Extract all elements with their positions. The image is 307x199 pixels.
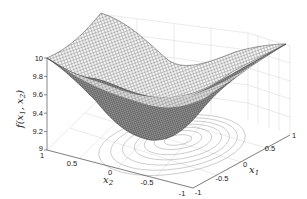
x2-tick: 0.5 — [67, 159, 77, 168]
x1-tick: 0 — [243, 160, 247, 169]
x2-tick: -0.5 — [141, 178, 154, 187]
mesh-surface — [47, 13, 286, 140]
z-tick-labels: 10 9.8 9.6 9.4 9.2 9 — [33, 54, 43, 154]
x1-tick: -0.5 — [216, 174, 229, 183]
surface-plot: 10 9.8 9.6 9.4 9.2 9 1 0.5 0 -0.5 -1 -1 … — [0, 0, 307, 199]
z-tick: 9.6 — [33, 90, 43, 99]
z-tick: 10 — [35, 54, 43, 63]
z-axis-label: f(x1, x2) — [14, 90, 27, 129]
x1-tick-labels: -1 -0.5 0 0.5 1 — [195, 131, 296, 197]
x2-tick: -1 — [179, 189, 186, 198]
x1-tick: -1 — [195, 188, 202, 197]
x1-tick: 0.5 — [265, 144, 275, 153]
x1-tick: 1 — [292, 131, 296, 140]
x2-tick: 1 — [40, 151, 44, 160]
z-tick: 9.8 — [33, 72, 43, 81]
z-tick: 9.2 — [33, 127, 43, 136]
x1-axis-label: x1 — [249, 164, 259, 177]
z-tick: 9.4 — [33, 109, 43, 118]
